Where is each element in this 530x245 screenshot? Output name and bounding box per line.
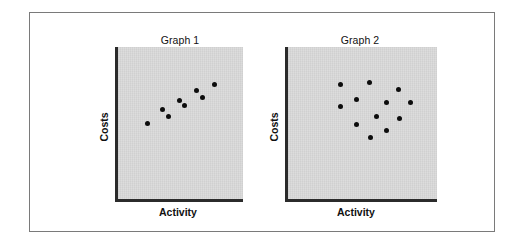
graph-1-title: Graph 1	[150, 34, 210, 46]
data-point	[354, 122, 359, 127]
data-point	[194, 88, 199, 93]
graph-2-y-axis-label: Costs	[268, 107, 280, 147]
data-point	[397, 116, 402, 121]
graph-2-x-axis-label: Activity	[326, 206, 386, 218]
graph-2-title: Graph 2	[330, 34, 390, 46]
data-point	[374, 114, 379, 119]
data-point	[200, 95, 205, 100]
graph-1-y-axis-label: Costs	[98, 107, 110, 147]
data-point	[212, 82, 217, 87]
data-point	[177, 98, 182, 103]
data-point	[367, 80, 372, 85]
data-point	[368, 135, 373, 140]
data-point	[384, 128, 389, 133]
data-point	[384, 100, 389, 105]
data-point	[408, 100, 413, 105]
data-point	[354, 97, 359, 102]
data-point	[338, 82, 343, 87]
data-point	[396, 87, 401, 92]
data-point	[166, 114, 171, 119]
graph-1-plot-area	[115, 47, 243, 202]
data-point	[338, 104, 343, 109]
graph-1-x-axis-label: Activity	[148, 206, 208, 218]
graph-2-plot-area	[285, 47, 437, 202]
data-point	[145, 121, 150, 126]
data-point	[182, 103, 187, 108]
